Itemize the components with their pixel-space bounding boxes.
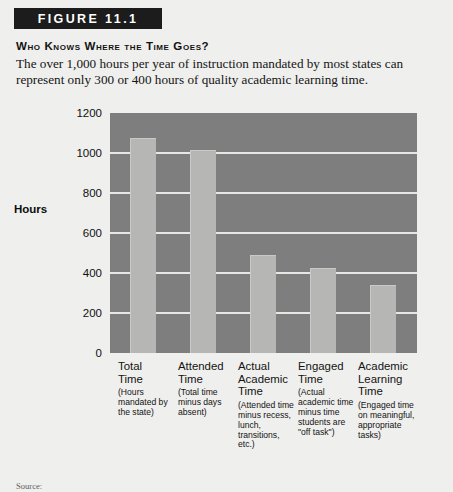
y-tick-label: 400 (56, 268, 102, 279)
category-name: Total Time (118, 360, 176, 385)
category-label-academic-learning-time: Academic Learning Time (Engaged time on … (358, 360, 416, 440)
y-tick-label: 200 (56, 308, 102, 319)
y-tick-label: 800 (56, 188, 102, 199)
bar-attended-time (190, 150, 216, 353)
bar-total-time (130, 138, 156, 353)
category-name: Actual Academic Time (238, 360, 296, 398)
y-axis-title: Hours (14, 203, 47, 215)
category-note: (Engaged time on meaningful, appropriate… (358, 401, 416, 441)
y-tick-label: 1200 (56, 108, 102, 119)
bar-academic-learning-time (370, 285, 396, 353)
category-note: (Hours mandated by the state) (118, 388, 176, 418)
category-note: (Total time minus days absent) (178, 388, 236, 418)
plot-area (110, 113, 417, 353)
category-note: (Actual academic time minus time student… (298, 388, 356, 438)
category-label-attended-time: Attended Time (Total time minus days abs… (178, 360, 236, 418)
y-tick-label: 600 (56, 228, 102, 239)
bar-engaged-time (310, 268, 336, 353)
y-tick-label: 0 (56, 348, 102, 359)
category-name: Engaged Time (298, 360, 356, 385)
category-name: Attended Time (178, 360, 236, 385)
source-line: Source: (16, 481, 436, 491)
gridline-800 (110, 192, 417, 194)
y-tick-label: 1000 (56, 148, 102, 159)
gridline-600 (110, 232, 417, 234)
category-note: (Attended time minus recess, lunch, tran… (238, 401, 296, 451)
category-label-engaged-time: Engaged Time (Actual academic time minus… (298, 360, 356, 438)
category-label-actual-academic-time: Actual Academic Time (Attended time minu… (238, 360, 296, 450)
bar-chart: Hours 1200 1000 800 600 400 200 0 Total … (0, 0, 453, 492)
bar-actual-academic-time (250, 255, 276, 353)
category-name: Academic Learning Time (358, 360, 416, 398)
gridline-1000 (110, 152, 417, 154)
category-label-total-time: Total Time (Hours mandated by the state) (118, 360, 176, 418)
